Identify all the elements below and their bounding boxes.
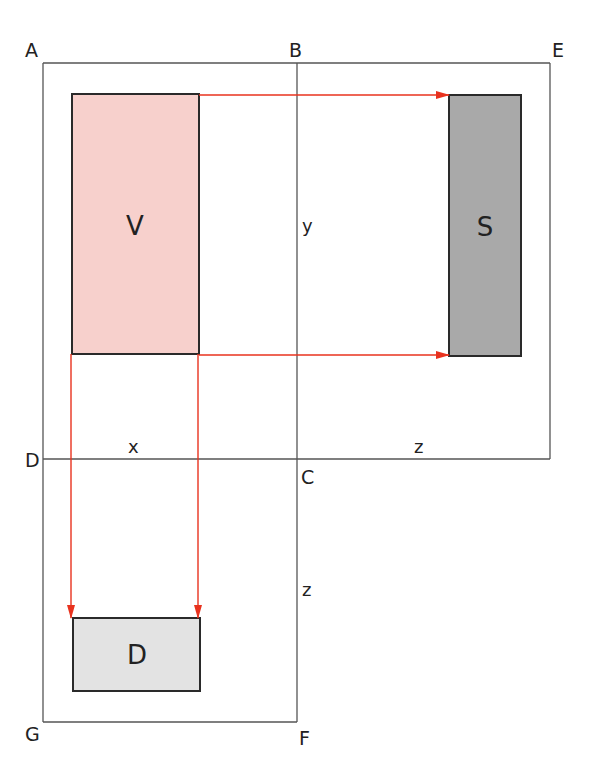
view-label-D: D xyxy=(127,640,147,670)
dimension-label-z-right: z xyxy=(414,436,423,457)
dimension-label-x: x xyxy=(128,436,139,457)
corner-label-F: F xyxy=(299,727,310,749)
dimension-label-z-bottom: z xyxy=(302,579,311,600)
dimension-label-y: y xyxy=(302,215,313,236)
corner-label-G: G xyxy=(25,723,40,745)
corner-label-E: E xyxy=(552,39,564,61)
corner-label-C: C xyxy=(301,466,314,488)
projection-diagram: A B E D C G F x y z z V S D xyxy=(0,0,590,765)
corner-label-A: A xyxy=(25,39,38,61)
view-label-S: S xyxy=(477,212,494,242)
corner-label-B: B xyxy=(289,39,302,61)
corner-label-D: D xyxy=(25,449,40,471)
view-label-V: V xyxy=(126,211,144,241)
